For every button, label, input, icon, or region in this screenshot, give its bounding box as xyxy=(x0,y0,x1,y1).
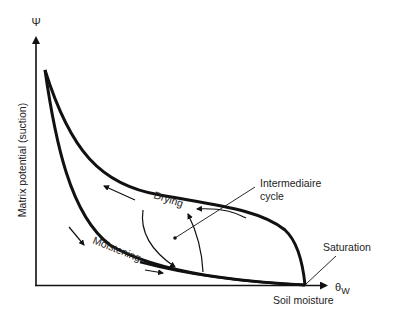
drying-label: Drying xyxy=(152,188,185,209)
y-axis: Ψ Matrix potential (suction) xyxy=(16,16,41,286)
saturation-leader-line xyxy=(306,256,336,284)
intermediate-label-line2: cycle xyxy=(260,190,284,202)
y-axis-symbol: Ψ xyxy=(31,16,40,28)
saturation-label: Saturation xyxy=(323,241,371,253)
hysteresis-diagram: Ψ Matrix potential (suction) θW Soil moi… xyxy=(0,0,399,318)
moistening-arrow-right xyxy=(145,270,163,273)
intermediate-scanning-curve-right xyxy=(188,214,203,272)
moistening-arrow-left xyxy=(69,227,84,245)
x-axis-symbol: θW xyxy=(335,281,350,296)
moistening-label: Moistening xyxy=(91,234,143,264)
x-axis-label: Soil moisture xyxy=(273,294,334,306)
y-axis-label: Matrix potential (suction) xyxy=(16,103,28,217)
intermediate-label-line1: Intermediaire xyxy=(260,177,321,189)
intermediate-scanning-curve-left xyxy=(142,210,175,267)
